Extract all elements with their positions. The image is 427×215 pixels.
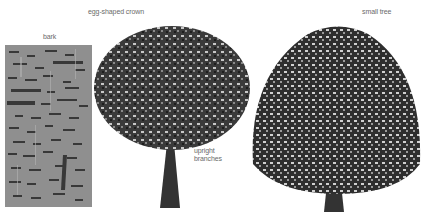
tree-small	[248, 14, 427, 215]
bark-swatch	[5, 45, 92, 207]
tree-egg-shaped-crown	[92, 18, 252, 215]
label-bark: bark	[43, 33, 56, 41]
bark-texture	[5, 45, 92, 207]
crown	[253, 27, 421, 195]
label-egg-shaped-crown: egg-shaped crown	[88, 8, 144, 16]
crown	[94, 26, 250, 150]
trunk	[160, 143, 180, 208]
